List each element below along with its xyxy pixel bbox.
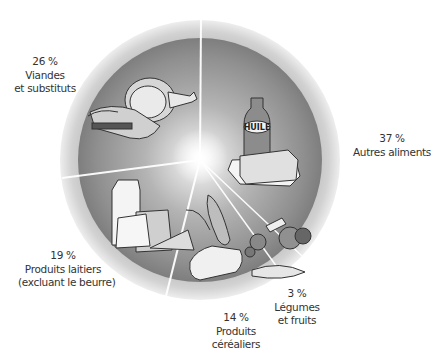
label-viandes-substituts: 26 % Viandes et substituts [14,55,76,96]
label-text: Autres aliments [352,146,432,160]
label-pct: 19 % [18,249,108,263]
label-legumes-fruits: 3 % Légumes et fruits [272,287,322,328]
label-pct: 14 % [208,311,264,325]
center-glow [172,129,228,185]
label-produits-cerealiers: 14 % Produits céréaliers [208,311,264,352]
label-autres-aliments: 37 % Autres aliments [352,132,432,159]
label-text: (excluant le beurre) [18,276,108,290]
label-text: Produits [208,325,264,339]
label-pct: 37 % [352,132,432,146]
label-pct: 3 % [272,287,322,301]
oil-label: HUILE [244,123,271,132]
label-text: céréaliers [208,338,264,352]
label-text: et substituts [14,82,76,96]
label-pct: 26 % [14,55,76,69]
label-text: et fruits [272,314,322,328]
label-text: Viandes [14,69,76,83]
label-produits-laitiers: 19 % Produits laitiers (excluant le beur… [18,249,108,290]
label-text: Produits laitiers [18,263,108,277]
label-text: Légumes [272,301,322,315]
